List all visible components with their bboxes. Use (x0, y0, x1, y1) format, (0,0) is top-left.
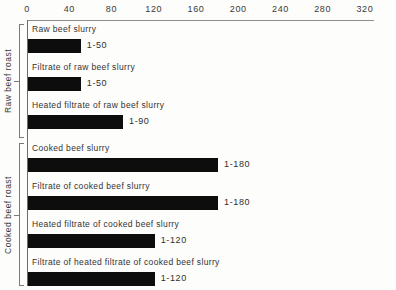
bar-value-label: 1-180 (224, 197, 250, 207)
bar-value-label: 1-90 (129, 116, 149, 126)
group-label-text: Raw beef roast (3, 49, 13, 113)
bar-category-label: Filtrate of heated filtrate of cooked be… (32, 257, 220, 267)
bar-row: Cooked beef slurry1-180 (28, 143, 396, 181)
bar (28, 158, 218, 172)
x-tick-label: 240 (272, 4, 289, 14)
bar-value-label: 1-50 (87, 40, 107, 50)
x-tick-label: 80 (106, 4, 117, 14)
bar (28, 234, 155, 248)
bar-row: Filtrate of heated filtrate of cooked be… (28, 257, 396, 290)
bar (28, 39, 81, 53)
bar-value-label: 1-120 (161, 235, 187, 245)
bar-value-label: 1-120 (161, 273, 187, 283)
group-label: Cooked beef roast (0, 143, 16, 286)
x-tick-label: 320 (356, 4, 373, 14)
bar-category-label: Heated filtrate of raw beef slurry (32, 100, 164, 110)
bar-row: Filtrate of raw beef slurry1-50 (28, 62, 396, 100)
x-tick-label: 40 (64, 4, 75, 14)
group-bracket (19, 24, 24, 138)
bar-category-label: Heated filtrate of cooked beef slurry (32, 219, 179, 229)
x-tick-label: 120 (145, 4, 162, 14)
bar-row: Heated filtrate of cooked beef slurry1-1… (28, 219, 396, 257)
bar-row: Heated filtrate of raw beef slurry1-90 (28, 100, 396, 138)
bar-group: Raw beef roastRaw beef slurry1-50Filtrat… (0, 24, 396, 138)
bar (28, 77, 81, 91)
chart-screenshot: 04080120160200240280320 Raw beef roastRa… (0, 0, 396, 290)
group-label-text: Cooked beef roast (3, 176, 13, 254)
x-tick-label: 280 (314, 4, 331, 14)
x-axis-line (27, 20, 374, 21)
bar-group: Cooked beef roastCooked beef slurry1-180… (0, 143, 396, 286)
group-label: Raw beef roast (0, 24, 16, 138)
bar-value-label: 1-180 (224, 159, 250, 169)
group-bracket (19, 143, 24, 286)
bar (28, 115, 123, 129)
bar-category-label: Filtrate of cooked beef slurry (32, 181, 150, 191)
bar-category-label: Filtrate of raw beef slurry (32, 62, 135, 72)
bar-category-label: Raw beef slurry (32, 24, 96, 34)
bar (28, 272, 155, 286)
x-tick-label: 200 (230, 4, 247, 14)
bar-category-label: Cooked beef slurry (32, 143, 110, 153)
bar-row: Raw beef slurry1-50 (28, 24, 396, 62)
bar-row: Filtrate of cooked beef slurry1-180 (28, 181, 396, 219)
bar-value-label: 1-50 (87, 78, 107, 88)
x-tick-label: 0 (24, 4, 30, 14)
bar (28, 196, 218, 210)
x-tick-label: 160 (188, 4, 205, 14)
